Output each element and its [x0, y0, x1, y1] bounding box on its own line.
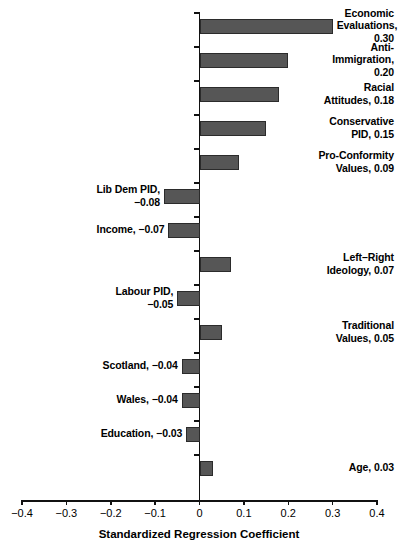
x-axis-tick: [66, 500, 68, 505]
bar: [164, 189, 200, 204]
category-tick: [194, 454, 199, 456]
x-axis-tick: [110, 500, 112, 505]
plot-area: Economic Evaluations, 0.30Anti- Immigrat…: [0, 0, 398, 500]
category-tick: [194, 284, 199, 286]
bar: [200, 325, 222, 340]
x-axis-tick: [376, 500, 378, 505]
x-axis-tick-label: 0.4: [357, 507, 397, 519]
bar-label: Economic Evaluations, 0.30: [337, 7, 394, 45]
bar: [200, 19, 333, 34]
bar: [200, 155, 240, 170]
category-tick: [194, 250, 199, 252]
category-tick: [194, 352, 199, 354]
bar: [200, 257, 231, 272]
bar-label: Racial Attitudes, 0.18: [283, 81, 394, 106]
x-axis-tick-label: 0.3: [313, 507, 353, 519]
bar: [182, 393, 200, 408]
bar-label: Income, −0.07: [2, 223, 164, 236]
bar-label: Conservative PID, 0.15: [270, 115, 394, 140]
category-tick: [194, 148, 199, 150]
bar-label: Left–Right Ideology, 0.07: [235, 251, 394, 276]
category-tick: [194, 216, 199, 218]
bar: [177, 291, 199, 306]
category-tick: [194, 318, 199, 320]
category-tick: [194, 12, 199, 14]
category-tick: [194, 80, 199, 82]
x-axis-tick-label: −0.3: [46, 507, 86, 519]
x-axis-title: Standardized Regression Coefficient: [0, 528, 398, 540]
bar-label: Scotland, −0.04: [2, 359, 178, 372]
bar: [200, 87, 280, 102]
x-axis-tick: [332, 500, 334, 505]
bar-label: Labour PID, −0.05: [2, 285, 173, 310]
bar: [186, 427, 199, 442]
x-axis-tick: [243, 500, 245, 505]
x-axis-tick-label: −0.1: [135, 507, 175, 519]
bar: [168, 223, 199, 238]
x-axis-tick: [199, 500, 201, 505]
bar-label: Education, −0.03: [2, 427, 182, 440]
bar-label: Pro-Conformity Values, 0.09: [243, 149, 394, 174]
x-axis-tick: [288, 500, 290, 505]
regression-coefficient-bar-chart: Economic Evaluations, 0.30Anti- Immigrat…: [0, 0, 398, 551]
bar: [182, 359, 200, 374]
category-tick: [194, 182, 199, 184]
x-axis-tick: [154, 500, 156, 505]
x-axis-tick-label: 0.2: [268, 507, 308, 519]
category-tick: [194, 386, 199, 388]
x-axis-tick-label: −0.2: [91, 507, 131, 519]
bar-label: Lib Dem PID, −0.08: [2, 183, 160, 208]
bar-label: Traditional Values, 0.05: [226, 319, 394, 344]
bar: [200, 121, 267, 136]
category-tick: [194, 420, 199, 422]
x-axis-tick-label: 0: [180, 507, 220, 519]
bar-label: Wales, −0.04: [2, 393, 178, 406]
bar-label: Age, 0.03: [217, 461, 394, 474]
x-axis-tick-label: 0.1: [224, 507, 264, 519]
bar-label: Anti- Immigration, 0.20: [292, 41, 394, 79]
x-axis-tick-label: −0.4: [2, 507, 42, 519]
bar: [200, 461, 213, 476]
category-tick: [194, 46, 199, 48]
category-tick: [194, 114, 199, 116]
x-axis-tick: [21, 500, 23, 505]
bar: [200, 53, 289, 68]
